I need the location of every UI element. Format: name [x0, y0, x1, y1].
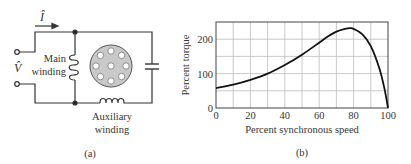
x-tick-label: 60 [314, 110, 325, 121]
terminal-bottom [15, 82, 20, 87]
wire-bottom [19, 84, 100, 103]
y-tick-label: 100 [197, 69, 213, 80]
rotor [90, 45, 132, 87]
voltage-label: V̂ [14, 61, 23, 75]
auxiliary-winding-coil [100, 99, 125, 104]
rotor-bar [108, 63, 114, 69]
current-arrow-head [52, 24, 58, 29]
rotor-bar [97, 52, 103, 58]
rotor-bar [97, 73, 103, 79]
rotor-bar [118, 52, 124, 58]
main-winding-coil [69, 55, 78, 80]
terminal-top [15, 50, 20, 55]
main-winding-label-1: Main [44, 53, 67, 64]
y-axis-label: Percent torque [180, 34, 191, 95]
x-tick-label: 100 [380, 110, 396, 121]
circuit-diagram [15, 24, 159, 106]
rotor-bar [93, 63, 99, 69]
y-tick-label: 200 [197, 34, 213, 45]
torque-speed-chart: 020406080100 0100200 Percent synchronous… [180, 22, 396, 159]
y-tick-labels: 0100200 [197, 34, 213, 114]
x-axis-label: Percent synchronous speed [245, 124, 359, 135]
aux-winding-label-1: Auxiliary [92, 111, 133, 122]
junction-bottom [73, 101, 77, 105]
caption-b: (b) [296, 147, 309, 159]
x-tick-label: 80 [348, 110, 359, 121]
rotor-bar [123, 63, 129, 69]
x-tick-label: 0 [213, 110, 218, 121]
x-tick-labels: 020406080100 [213, 110, 396, 121]
rotor-bar [108, 48, 114, 54]
x-tick-label: 20 [245, 110, 256, 121]
current-label: Î [39, 10, 45, 24]
aux-winding-label-2: winding [95, 124, 130, 135]
y-tick-label: 0 [208, 103, 213, 114]
x-tick-label: 40 [280, 110, 291, 121]
wire-top [19, 32, 152, 60]
rotor-bars [93, 48, 129, 84]
caption-a: (a) [84, 148, 96, 160]
junction-top [73, 30, 77, 34]
figure-canvas: Î V̂ Main winding Auxiliary winding (a) … [0, 0, 411, 164]
main-winding-label-2: winding [32, 66, 67, 77]
rotor-bar [118, 73, 124, 79]
rotor-bar [108, 78, 114, 84]
